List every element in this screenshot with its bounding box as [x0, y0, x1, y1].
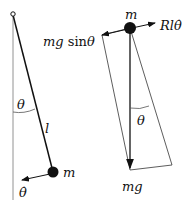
free-body-mass	[124, 22, 136, 34]
damping-force-label: Rlθ̇	[160, 19, 182, 32]
tangential-force-arrow	[102, 29, 128, 35]
angle-arc-free-body	[130, 106, 149, 109]
pendulum-bob	[48, 167, 59, 178]
gravity-label: mg	[122, 180, 143, 193]
free-body-angle-label: θ	[137, 114, 145, 127]
free-body-mass-label: m	[125, 8, 137, 21]
tangential-force-label: mg sinθ	[43, 35, 95, 48]
length-label: l	[45, 122, 49, 135]
velocity-arrow	[22, 174, 50, 180]
angular-velocity-label: θ̇	[19, 186, 27, 199]
force-decomposition-rectangle	[102, 28, 172, 170]
pivot-point	[11, 12, 15, 16]
angle-label: θ	[17, 98, 25, 111]
mass-label: m	[63, 166, 75, 179]
